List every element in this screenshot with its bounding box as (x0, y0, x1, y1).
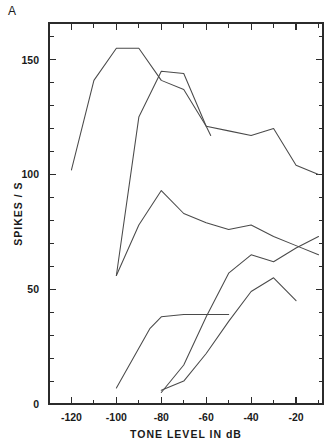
y-axis-title: SPIKES / S (12, 181, 24, 245)
curve-unit-4 (116, 314, 228, 387)
x-tick-label: -20 (288, 411, 303, 423)
x-tick-label: -40 (244, 411, 259, 423)
axis-frame (49, 23, 323, 404)
axis-ticks (49, 23, 323, 404)
y-tick-label: 150 (21, 54, 39, 66)
curve-unit-3 (116, 191, 318, 276)
x-tick-label: -100 (106, 411, 127, 423)
axis-labels: 050100150-120-100-80-60-40-20TONE LEVEL … (12, 54, 304, 440)
x-axis-title: TONE LEVEL IN dB (130, 428, 242, 440)
curve-unit-6 (161, 278, 296, 390)
rate-level-plot: 050100150-120-100-80-60-40-20TONE LEVEL … (0, 0, 333, 445)
plot-frame (49, 23, 323, 404)
x-tick-label: -120 (61, 411, 82, 423)
curve-unit-1 (71, 48, 210, 170)
x-tick-label: -60 (199, 411, 214, 423)
y-tick-label: 0 (33, 398, 39, 410)
y-tick-label: 50 (27, 283, 39, 295)
figure-panel-a: A 050100150-120-100-80-60-40-20TONE LEVE… (0, 0, 333, 445)
curve-unit-2 (116, 71, 318, 275)
data-curves (71, 48, 318, 392)
x-tick-label: -80 (154, 411, 169, 423)
y-tick-label: 100 (21, 168, 39, 180)
